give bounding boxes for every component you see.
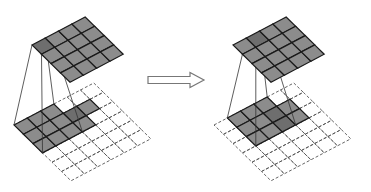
input-cell: [281, 83, 304, 99]
panel-after-convolution-step: [214, 17, 351, 181]
input-cell: [81, 83, 104, 99]
input-cell: [101, 144, 124, 160]
input-cell: [262, 165, 285, 181]
input-cell: [328, 130, 351, 146]
input-cell: [105, 127, 128, 143]
input-cell: [252, 155, 275, 171]
right-arrow-icon: [148, 73, 204, 88]
input-cell: [243, 146, 266, 162]
input-cell: [319, 120, 342, 136]
input-cell: [92, 134, 115, 150]
input-cell: [75, 158, 98, 174]
kernel-window: [14, 99, 100, 153]
diagram-svg: [0, 0, 371, 192]
input-cell: [100, 102, 123, 118]
input-cell: [128, 130, 151, 146]
input-cell: [65, 148, 88, 164]
input-cell: [79, 141, 102, 157]
input-cell: [265, 148, 288, 164]
input-cell: [301, 144, 324, 160]
output-feature-map: [233, 17, 324, 82]
input-cell: [288, 151, 311, 167]
output-feature-map: [32, 17, 123, 82]
input-cell: [305, 127, 328, 143]
input-cell: [88, 151, 111, 167]
input-cell: [109, 111, 132, 127]
input-cell: [315, 137, 338, 153]
input-cell: [275, 158, 298, 174]
convolution-diagram: [0, 0, 371, 192]
input-cell: [96, 118, 119, 134]
input-cell: [52, 155, 75, 171]
input-cell: [292, 134, 315, 150]
panel-before-convolution-step: [14, 17, 151, 181]
input-cell: [115, 137, 138, 153]
input-cell: [279, 141, 302, 157]
input-cell: [119, 120, 142, 136]
input-cell: [62, 165, 85, 181]
input-cell: [309, 111, 332, 127]
